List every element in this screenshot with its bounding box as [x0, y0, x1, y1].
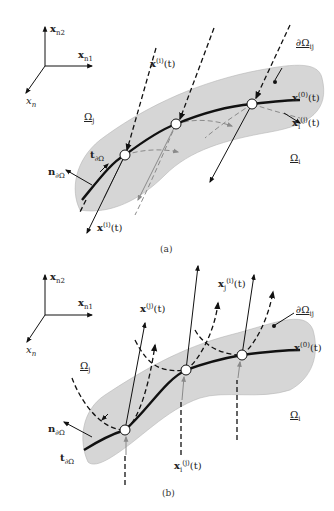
label-x0-a: x(0)(t) — [292, 92, 320, 103]
label-xi-j-a: xi(j)(t) — [292, 117, 320, 131]
region-omega-a — [75, 65, 324, 211]
label-normal-a: n∂Ω — [48, 167, 65, 180]
axis-label-xn2-b: xn2 — [50, 272, 65, 285]
label-xj-i-b: xj(i)(t) — [218, 278, 246, 292]
axis-label-xn2-a: xn2 — [50, 24, 65, 37]
region-omega-b — [83, 319, 316, 464]
caption-a: (a) — [160, 244, 172, 254]
label-xj-b: x(j)(t) — [140, 303, 165, 314]
panel-a — [26, 25, 324, 233]
boundary-dot-b — [272, 324, 276, 328]
label-omega-j-a: Ωj — [84, 112, 94, 125]
label-boundary-b: ∂Ωij — [296, 305, 314, 318]
label-xj-i-a: x(i)(t) — [150, 58, 176, 69]
label-normal-b: n∂Ω — [48, 424, 65, 437]
switch-point-a-3 — [247, 99, 257, 109]
switch-point-b-3 — [237, 350, 247, 360]
caption-b: (b) — [162, 488, 175, 498]
axis-label-xn-a: xn — [26, 96, 36, 109]
switch-point-a-1 — [120, 150, 130, 160]
boundary-dot-a — [273, 80, 277, 84]
label-omega-j-b: Ωj — [80, 361, 90, 374]
label-xi-a: x(i)(t) — [97, 222, 123, 233]
label-x0-b: x(0)(t) — [294, 342, 322, 353]
switch-point-b-2 — [181, 365, 191, 375]
label-omega-i-a: Ωi — [290, 153, 301, 166]
label-tangent-a: t∂Ω — [90, 150, 104, 163]
switch-point-a-2 — [171, 119, 181, 129]
label-xi-j-b: xi(j)(t) — [174, 460, 202, 474]
label-boundary-a: ∂Ωij — [296, 38, 314, 51]
axis-label-xn-b: xn — [26, 345, 36, 358]
axis-label-xn1-a: xn1 — [78, 50, 93, 63]
label-omega-i-b: Ωi — [290, 410, 301, 423]
switch-point-b-1 — [120, 425, 130, 435]
axis-label-xn1-b: xn1 — [78, 298, 93, 311]
label-tangent-b: t∂Ω — [60, 453, 74, 466]
